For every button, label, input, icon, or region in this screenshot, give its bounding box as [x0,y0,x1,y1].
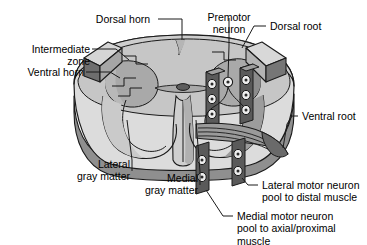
central-canal [177,84,190,91]
medial-column-cells-upper [208,79,216,118]
spinal-cord-diagram [0,0,367,245]
label-ventral-horn: Ventral horn [4,66,84,78]
label-dorsal-horn: Dorsal horn [87,13,159,25]
label-dorsal-root: Dorsal root [270,20,360,32]
label-ventral-root: Ventral root [302,110,367,122]
label-premotor-neuron: Premotor neuron [196,11,262,36]
label-medial-motor-pool: Medial motor neuron pool to axial/proxim… [237,210,361,245]
label-medial-gray-matter: Medial gray matter [116,172,198,197]
label-lateral-motor-pool: Lateral motor neuron pool to distal musc… [262,179,367,204]
lateral-column-cells-upper [242,75,250,114]
label-intermediate-zone: Intermediate zone [4,43,90,68]
leader-medial-motor-pool [206,190,233,216]
